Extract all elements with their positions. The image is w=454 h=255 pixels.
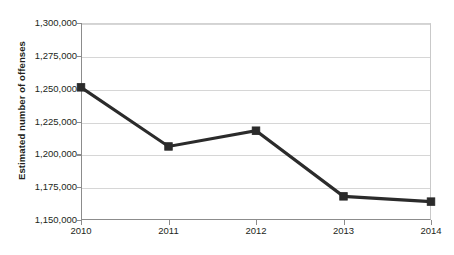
chart-title xyxy=(60,0,420,5)
gridline xyxy=(82,90,430,91)
gridline xyxy=(82,24,430,25)
x-tick-mark xyxy=(81,220,82,225)
y-tick-mark xyxy=(77,56,82,57)
x-tick-label: 2010 xyxy=(61,225,101,236)
x-tick-mark xyxy=(344,220,345,225)
gridline xyxy=(82,57,430,58)
plot-area xyxy=(81,23,431,220)
x-tick-label: 2014 xyxy=(411,225,451,236)
y-tick-label: 1,150,000 xyxy=(25,215,77,225)
y-tick-label: 1,225,000 xyxy=(25,117,77,127)
y-tick-label: 1,275,000 xyxy=(25,51,77,61)
y-tick-mark xyxy=(77,187,82,188)
y-axis-title: Estimated number of offenses xyxy=(16,16,27,206)
y-tick-mark xyxy=(77,89,82,90)
y-tick-mark xyxy=(77,122,82,123)
y-tick-label: 1,250,000 xyxy=(25,84,77,94)
x-tick-mark xyxy=(169,220,170,225)
y-tick-label: 1,300,000 xyxy=(25,18,77,28)
x-tick-label: 2012 xyxy=(236,225,276,236)
gridline xyxy=(82,188,430,189)
y-tick-mark xyxy=(77,154,82,155)
y-tick-label: 1,175,000 xyxy=(25,182,77,192)
x-tick-mark xyxy=(431,220,432,225)
gridline xyxy=(82,155,430,156)
y-tick-mark xyxy=(77,23,82,24)
x-tick-label: 2011 xyxy=(149,225,189,236)
y-tick-label: 1,200,000 xyxy=(25,149,77,159)
x-tick-mark xyxy=(256,220,257,225)
x-tick-label: 2013 xyxy=(324,225,364,236)
line-chart: Estimated number of offenses 1,300,0001,… xyxy=(0,0,454,255)
gridline xyxy=(82,123,430,124)
